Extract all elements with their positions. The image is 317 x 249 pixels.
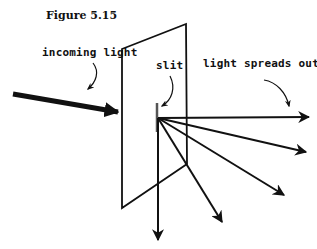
ray-3-arrow-icon <box>158 118 284 195</box>
incoming-label-pointer-icon <box>88 63 97 89</box>
ray-1-arrow-icon <box>158 117 309 118</box>
incoming-light-arrow-icon <box>13 94 118 112</box>
diffraction-diagram: Figure 5.15 incoming light slit light sp… <box>0 0 317 249</box>
spreads-label-pointer-icon <box>264 80 289 106</box>
barrier-panel <box>122 24 187 208</box>
ray-2-arrow-icon <box>158 118 306 152</box>
ray-4-arrow-icon <box>158 118 222 222</box>
slit-label-pointer-icon <box>162 76 173 106</box>
diagram-drawing <box>0 0 317 249</box>
diffracted-rays <box>158 117 309 240</box>
